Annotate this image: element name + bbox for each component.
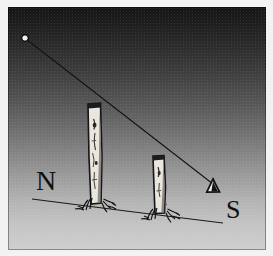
short-post xyxy=(153,156,166,214)
line-of-sight-group xyxy=(26,39,213,184)
line-of-sight xyxy=(26,39,213,184)
figure-container: N S xyxy=(0,0,273,256)
horizon-ground-line xyxy=(32,199,223,223)
ground-line-group xyxy=(32,199,223,223)
star-marker xyxy=(21,34,28,41)
direction-label-south: S xyxy=(226,197,240,223)
tall-post xyxy=(88,103,102,204)
direction-label-north: N xyxy=(36,167,56,195)
illustration-plate: N S xyxy=(8,7,266,250)
